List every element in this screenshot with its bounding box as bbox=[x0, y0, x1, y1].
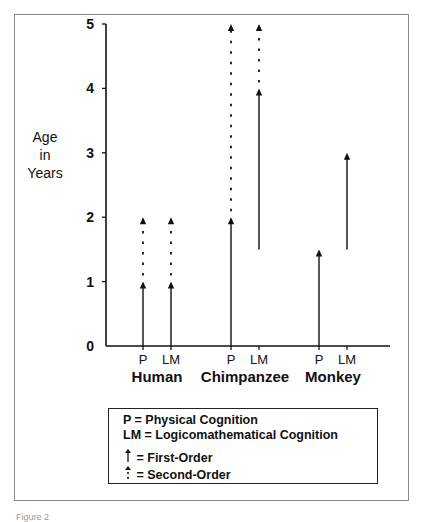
first-order-arrowhead bbox=[316, 249, 322, 256]
y-axis-label-line: Age bbox=[20, 128, 70, 146]
y-tick-label: 4 bbox=[86, 80, 94, 96]
legend-entry-first-order: = First-Order bbox=[123, 449, 377, 466]
first-order-arrowhead bbox=[256, 88, 262, 95]
legend-entry-p: P = Physical Cognition bbox=[123, 413, 377, 428]
x-tick-label: P bbox=[139, 352, 148, 367]
legend-entry-lm: LM = Logicomathematical Cognition bbox=[123, 428, 377, 443]
solid-arrow-icon bbox=[123, 449, 133, 466]
y-tick-label: 3 bbox=[86, 145, 94, 161]
legend-label: = First-Order bbox=[136, 451, 212, 465]
second-order-arrowhead bbox=[228, 24, 234, 31]
first-order-arrowhead bbox=[344, 153, 350, 160]
x-tick-label: LM bbox=[162, 352, 180, 367]
x-tick-label: LM bbox=[338, 352, 356, 367]
y-tick-label: 1 bbox=[86, 274, 94, 290]
y-axis-label-line: Years bbox=[20, 164, 70, 182]
y-axis-label-line: in bbox=[20, 146, 70, 164]
legend: P = Physical Cognition LM = Logicomathem… bbox=[108, 408, 378, 484]
dotted-arrow-icon bbox=[123, 466, 133, 483]
group-label: Monkey bbox=[305, 368, 362, 385]
first-order-arrowhead bbox=[140, 282, 146, 289]
y-axis-label: Age in Years bbox=[20, 128, 70, 182]
second-order-arrowhead bbox=[256, 24, 262, 31]
group-label: Human bbox=[132, 368, 183, 385]
x-tick-label: P bbox=[315, 352, 324, 367]
x-tick-label: P bbox=[227, 352, 236, 367]
y-tick-label: 5 bbox=[86, 16, 94, 32]
x-tick-label: LM bbox=[250, 352, 268, 367]
first-order-arrowhead bbox=[168, 282, 174, 289]
second-order-arrowhead bbox=[140, 217, 146, 224]
y-tick-label: 2 bbox=[86, 209, 94, 225]
first-order-arrowhead bbox=[228, 217, 234, 224]
legend-label: = Second-Order bbox=[136, 468, 230, 482]
y-tick-label: 0 bbox=[86, 338, 94, 354]
figure-caption: Figure 2 bbox=[16, 512, 49, 522]
group-label: Chimpanzee bbox=[201, 368, 289, 385]
legend-entry-second-order: = Second-Order bbox=[123, 466, 377, 483]
second-order-arrowhead bbox=[168, 217, 174, 224]
